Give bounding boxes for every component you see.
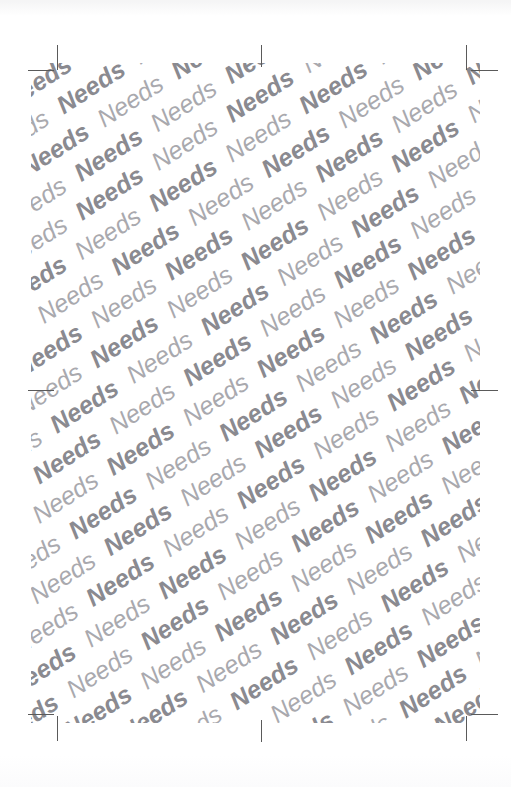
- crop-mark-top-center-tick: [261, 45, 262, 67]
- crop-mark-top-right-horizontal: [471, 70, 498, 71]
- scanned-page: NeedsNeedsNeedsNeedsNeedsNeedsNeedsNeeds…: [0, 0, 511, 787]
- watermark-field: NeedsNeedsNeedsNeedsNeedsNeedsNeedsNeeds…: [31, 63, 480, 723]
- crop-mark-top-left-horizontal: [28, 70, 54, 71]
- crop-mark-top-left-vertical: [57, 45, 58, 70]
- crop-mark-top-right-vertical: [466, 45, 467, 70]
- crop-mark-left-center-tick: [28, 390, 54, 391]
- crop-mark-bottom-right-vertical: [466, 716, 467, 741]
- watermark-word: Needs: [460, 63, 480, 89]
- crop-mark-bottom-center-tick: [261, 720, 262, 742]
- watermark-plane: NeedsNeedsNeedsNeedsNeedsNeedsNeedsNeeds…: [31, 63, 480, 723]
- crop-mark-bottom-right-horizontal: [471, 714, 498, 715]
- crop-mark-bottom-left-horizontal: [28, 714, 54, 715]
- crop-mark-right-center-tick: [471, 390, 498, 391]
- crop-mark-bottom-left-vertical: [57, 716, 58, 741]
